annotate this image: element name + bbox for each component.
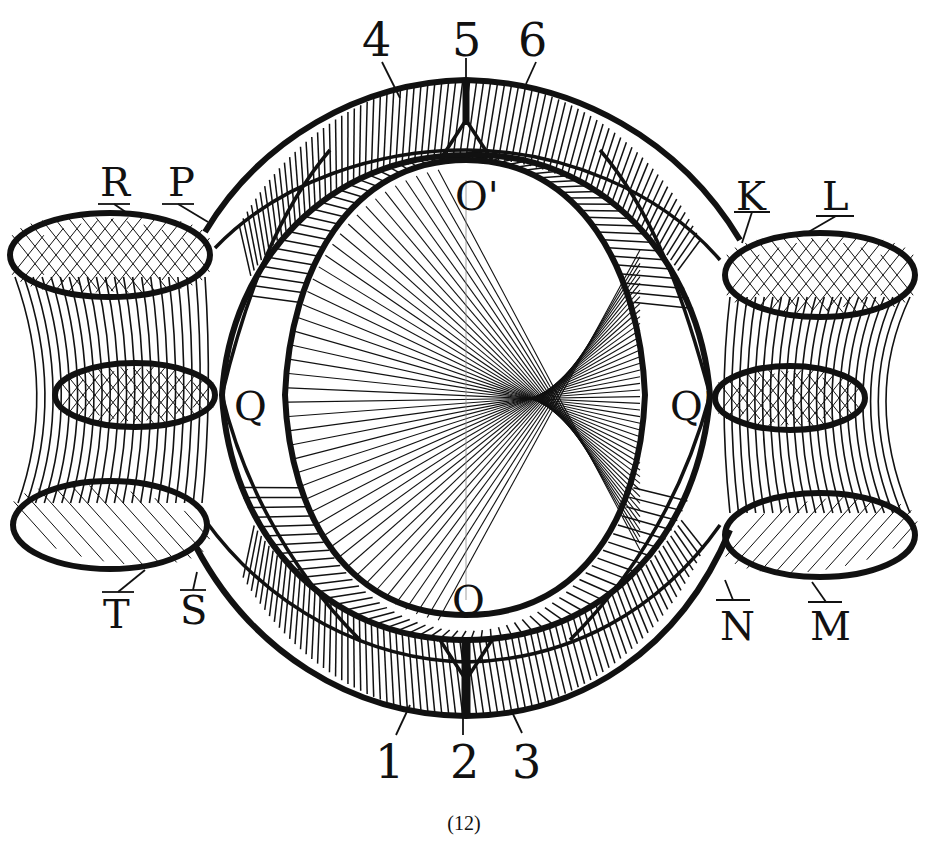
- right-top-rim: [725, 233, 915, 317]
- label-S: S: [180, 587, 207, 633]
- label-6: 6: [518, 13, 547, 67]
- label-L: L: [822, 173, 849, 219]
- label-O: O: [452, 577, 485, 623]
- right-waist-rim: [715, 366, 865, 430]
- left-bottom-rim: [13, 481, 207, 569]
- label-N: N: [720, 603, 755, 649]
- label-R: R: [100, 159, 132, 205]
- figure-diagram: 4 5 6 1 2 3 R P T S Q K L N M: [0, 0, 928, 845]
- left-top-rim: [10, 213, 210, 297]
- label-3: 3: [512, 735, 541, 789]
- label-T: T: [103, 591, 130, 637]
- label-1: 1: [375, 735, 404, 789]
- label-P: P: [168, 159, 195, 205]
- label-Q-prime: Q': [670, 383, 714, 429]
- label-4: 4: [362, 13, 391, 67]
- label-2: 2: [450, 735, 479, 789]
- label-Q: Q: [234, 383, 267, 429]
- figure-caption: (12): [447, 812, 480, 835]
- label-M: M: [810, 603, 851, 649]
- label-O-prime: O': [455, 173, 499, 219]
